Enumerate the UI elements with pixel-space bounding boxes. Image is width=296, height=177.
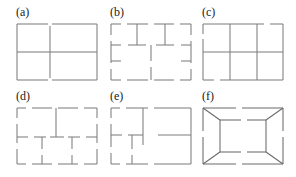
panel-a: (a) (14, 6, 106, 91)
panel-d-label: (d) (16, 90, 30, 103)
panel-e-label: (e) (110, 90, 123, 103)
panel-c: (c) (200, 6, 292, 91)
panel-b: (b) (108, 6, 200, 91)
panel-e: (e) (108, 90, 200, 175)
figure-sheet: (a) (0, 0, 296, 177)
panel-a-label: (a) (16, 6, 29, 19)
panel-f-label: (f) (202, 90, 214, 103)
panel-d: (d) (14, 90, 106, 175)
panel-a-drawing (16, 23, 98, 81)
panel-b-drawing (110, 23, 192, 81)
panel-d-drawing (16, 107, 98, 165)
panel-f: (f) (200, 90, 292, 175)
panel-b-label: (b) (110, 6, 124, 19)
panel-e-drawing (110, 107, 192, 165)
panel-c-drawing (202, 23, 284, 81)
panel-f-drawing (202, 107, 284, 165)
panel-c-label: (c) (202, 6, 215, 19)
